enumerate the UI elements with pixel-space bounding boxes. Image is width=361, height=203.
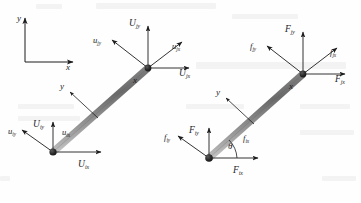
theta-angle-label: θ [228,142,232,151]
label-fjx: fjx [330,48,336,57]
vector-fiy [178,136,209,158]
right-local-x-axis-label: x [289,82,293,91]
label-Fiy: Fiy [189,126,199,136]
label-fjy: fjy [250,42,256,51]
label-Uix: Uix [78,160,89,170]
vector-fjy [267,46,303,74]
node-i-dot-left [49,148,56,155]
label-Ujx: Ujx [179,69,190,79]
label-Uiy: Uiy [33,120,44,130]
left-local-y-axis-label: y [60,82,64,91]
vector-ujy [112,40,148,68]
label-Fjx: Fjx [335,75,345,85]
label-ujy: ujy [93,36,101,45]
left-local-x-axis-label: x [133,76,137,85]
label-fix: fix [243,134,249,143]
label-ujx: ujx [172,42,180,51]
label-uiy: uiy [8,127,16,136]
label-fiy: fiy [164,133,170,142]
node-j-dot-right [300,71,307,78]
left-local-y-axis-arrow [70,92,98,118]
diagram-vectors [0,0,361,203]
node-i-dot-right [205,154,213,162]
global-axes-group [25,18,73,62]
figure-canvas: y x Ujy Ujx ujy ujx Uiy Uix uiy uix x y … [0,0,361,203]
vector-uiy [22,130,53,152]
label-Ujy: Ujy [129,19,140,29]
node-j-dot-left [145,65,152,72]
label-Fjy: Fjy [285,25,295,35]
right-local-y-axis-arrow [226,98,254,124]
global-x-axis-label: x [66,63,70,72]
global-y-axis-label: y [17,14,21,23]
label-Fix: Fix [233,166,243,176]
right-local-y-axis-label: y [216,88,220,97]
label-uix: uix [62,128,70,137]
